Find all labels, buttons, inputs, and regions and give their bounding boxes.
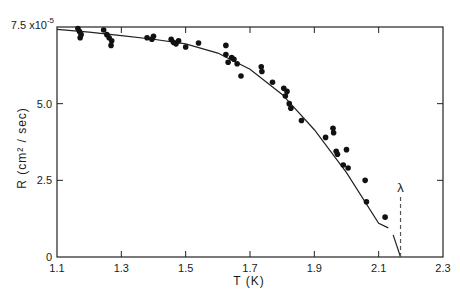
data-point (340, 162, 346, 168)
data-point (231, 56, 237, 62)
data-point (238, 73, 244, 79)
x-tick-label: 1.9 (307, 262, 322, 274)
data-point (364, 199, 370, 205)
y-axis-label: R (cm² / sec) (15, 107, 29, 189)
data-point (344, 147, 350, 153)
data-point (196, 40, 202, 46)
data-points (75, 26, 388, 220)
fit-line-tail (393, 235, 400, 257)
fit-line (57, 29, 388, 227)
x-tick-label: 1.1 (49, 262, 64, 274)
data-point (335, 151, 341, 157)
data-point (288, 105, 294, 111)
x-tick-label: 1.7 (242, 262, 257, 274)
data-point (183, 44, 189, 50)
chart-container: 1.11.31.51.71.92.12.302.55.07.5 x10-5 λ … (0, 0, 460, 299)
x-tick-label: 2.1 (371, 262, 386, 274)
plot-border (57, 27, 443, 257)
data-point (345, 165, 351, 171)
exponent: -5 (47, 16, 55, 25)
data-point (223, 43, 229, 49)
data-point (144, 35, 150, 41)
scatter-chart: 1.11.31.51.71.92.12.302.55.07.5 x10-5 λ … (0, 0, 460, 299)
data-point (270, 79, 276, 85)
data-point (176, 38, 182, 44)
lambda-label: λ (397, 180, 404, 195)
x-axis-label: T (K) (233, 274, 264, 288)
axis-ticks: 1.11.31.51.71.92.12.302.55.07.5 x10-5 (11, 16, 451, 274)
data-point (331, 130, 337, 136)
data-point (299, 118, 305, 124)
data-point (223, 52, 229, 58)
data-point (362, 178, 368, 184)
data-point (323, 135, 329, 141)
plot-frame (57, 27, 443, 257)
data-point (151, 33, 157, 39)
x-tick-label: 2.3 (435, 262, 450, 274)
x-tick-label: 1.3 (114, 262, 129, 274)
data-point (77, 35, 83, 41)
data-point (259, 69, 265, 75)
data-point (225, 59, 231, 65)
x-tick-label: 1.5 (178, 262, 193, 274)
data-point (101, 27, 107, 33)
data-point (283, 93, 289, 99)
data-point (108, 43, 114, 49)
y-tick-label: 0 (46, 251, 52, 263)
y-tick-label: 5.0 (37, 98, 52, 110)
y-tick-label: 2.5 (37, 174, 52, 186)
data-point (234, 61, 240, 67)
lambda-annotation: λ (397, 180, 404, 257)
y-tick-label-multiplier: 7.5 x10-5 (11, 16, 55, 31)
data-point (382, 214, 388, 220)
